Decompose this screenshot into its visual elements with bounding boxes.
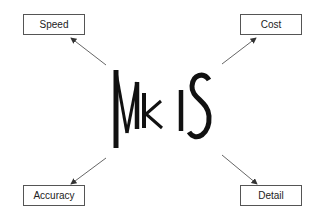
node-accuracy-label: Accuracy [33,190,74,201]
node-accuracy: Accuracy [23,185,85,206]
arrow-to-cost [222,38,256,64]
node-cost: Cost [240,14,302,35]
arrow-to-speed [71,38,106,65]
arrow-to-accuracy [71,158,106,184]
node-cost-label: Cost [261,19,282,30]
node-detail: Detail [240,185,302,206]
mkis-logo [110,64,215,152]
node-detail-label: Detail [258,190,284,201]
arrow-to-detail [222,155,257,184]
node-speed: Speed [23,14,85,35]
node-speed-label: Speed [40,19,69,30]
